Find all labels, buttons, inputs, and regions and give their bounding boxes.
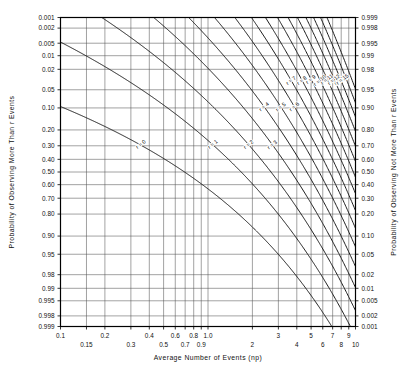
x-tick-label: 0.15	[80, 341, 93, 348]
y-tick-label-right: 0.995	[362, 40, 378, 47]
x-tick-label: 3	[277, 332, 281, 339]
x-tick-label: 0.8	[189, 332, 198, 339]
x-tick-label: 0.3	[126, 341, 135, 348]
poisson-probability-chart: r = 0r = 0r = 1r = 1r = 2r = 2r = 3r = 3…	[0, 0, 408, 376]
x-tick-label: 6	[321, 341, 325, 348]
x-tick-label: 4	[295, 341, 299, 348]
y-tick-label-right: 0.90	[362, 104, 375, 111]
y-tick-label-right: 0.98	[362, 66, 375, 73]
y-tick-label-left: 0.60	[42, 181, 55, 188]
y-tick-label-right: 0.05	[362, 251, 375, 258]
y-tick-label-left: 0.99	[42, 285, 55, 292]
y-tick-label-right: 0.001	[362, 323, 378, 330]
y-tick-label-right: 0.01	[362, 285, 375, 292]
y-tick-label-left: 0.001	[39, 14, 55, 21]
y-tick-label-right: 0.20	[362, 210, 375, 217]
y-tick-label-right: 0.999	[362, 14, 378, 21]
x-tick-label: 7	[331, 332, 335, 339]
y-tick-label-left: 0.01	[42, 52, 55, 59]
x-tick-label: 0.5	[159, 341, 168, 348]
y-tick-label-left: 0.20	[42, 126, 55, 133]
y-tick-label-right: 0.10	[362, 232, 375, 239]
y-tick-label-left: 0.70	[42, 195, 55, 202]
x-tick-label: 10	[352, 341, 360, 348]
y-tick-label-left: 0.40	[42, 156, 55, 163]
y-tick-label-left: 0.10	[42, 104, 55, 111]
y-tick-label-right: 0.70	[362, 142, 375, 149]
y-tick-label-left: 0.005	[39, 40, 55, 47]
y-tick-label-left: 0.30	[42, 142, 55, 149]
y-tick-label-left: 0.98	[42, 271, 55, 278]
grid-lines	[61, 18, 356, 327]
y-tick-label-right: 0.30	[362, 195, 375, 202]
x-tick-label: 2	[251, 341, 255, 348]
x-tick-label: 0.4	[145, 332, 154, 339]
y-tick-label-right: 0.95	[362, 86, 375, 93]
y-tick-label-left: 0.002	[39, 24, 55, 31]
y-tick-label-left: 0.80	[42, 210, 55, 217]
x-tick-label: 0.6	[171, 332, 180, 339]
y-tick-label-right: 0.50	[362, 168, 375, 175]
x-tick-label: 1.0	[204, 332, 213, 339]
y-axis-title-left: Probability of Observing More Than r Eve…	[8, 95, 16, 248]
y-tick-label-right: 0.40	[362, 181, 375, 188]
x-tick-label: 0.9	[197, 341, 206, 348]
y-tick-label-right: 0.60	[362, 156, 375, 163]
y-tick-label-left: 0.998	[39, 312, 55, 319]
x-axis-title: Average Number of Events (np)	[154, 354, 263, 362]
y-tick-label-left: 0.02	[42, 66, 55, 73]
x-tick-label: 8	[339, 341, 343, 348]
x-tick-label: 5	[309, 332, 313, 339]
y-tick-label-right: 0.99	[362, 52, 375, 59]
y-axis-title-right: Probability of Observing Not More Than r…	[390, 88, 398, 255]
y-tick-label-right: 0.002	[362, 312, 378, 319]
y-tick-label-right: 0.005	[362, 297, 378, 304]
y-tick-label-left: 0.50	[42, 168, 55, 175]
x-tick-label: 0.7	[181, 341, 190, 348]
x-tick-label: 0.1	[56, 332, 65, 339]
y-tick-label-right: 0.80	[362, 126, 375, 133]
y-tick-label-left: 0.05	[42, 86, 55, 93]
y-tick-label-right: 0.02	[362, 271, 375, 278]
chart-canvas: r = 0r = 0r = 1r = 1r = 2r = 2r = 3r = 3…	[0, 0, 408, 376]
y-tick-label-left: 0.995	[39, 297, 55, 304]
y-tick-label-left: 0.90	[42, 232, 55, 239]
x-axis-group: 0.10.150.20.30.40.50.60.70.80.91.0234567…	[56, 327, 359, 349]
x-tick-label: 0.2	[100, 332, 109, 339]
y-tick-label-left: 0.999	[39, 323, 55, 330]
y-tick-label-right: 0.998	[362, 24, 378, 31]
x-tick-label: 9	[347, 332, 351, 339]
y-tick-label-left: 0.95	[42, 251, 55, 258]
